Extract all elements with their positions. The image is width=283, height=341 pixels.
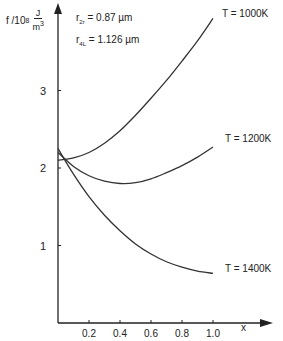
annotation-r4l: r4L = 1.126 µm: [76, 34, 139, 47]
y-tick-label: 2: [40, 162, 46, 174]
y-tick-label: 1: [40, 240, 46, 252]
y-axis-symbol: f /10: [6, 15, 25, 26]
x-tick-label: 0.4: [113, 328, 127, 339]
series-curve-2: [58, 149, 213, 274]
unit-numerator: J: [34, 8, 43, 19]
y-axis-label: f /108 J m3: [6, 8, 44, 32]
x-axis-arrow-icon: [260, 319, 273, 327]
x-axis-label: x: [241, 322, 246, 333]
y-tick-label: 3: [40, 85, 46, 97]
series-label-1000k: T = 1000K: [222, 8, 268, 19]
series-label-1200k: T = 1200K: [225, 133, 271, 144]
x-tick-label: 0.6: [144, 328, 158, 339]
y-axis-arrow-icon: [54, 3, 62, 14]
y-axis-exponent: 8: [25, 17, 29, 24]
chart-canvas: 0.20.40.60.81.0123: [0, 0, 283, 341]
x-tick-label: 0.2: [82, 328, 96, 339]
unit-denominator: m3: [32, 19, 43, 32]
series-label-1400k: T = 1400K: [225, 263, 271, 274]
y-axis-unit: J m3: [32, 8, 43, 32]
annotation-r2r: r2r = 0.87 µm: [76, 12, 132, 25]
series-curve-1: [58, 147, 213, 184]
x-tick-label: 1.0: [206, 328, 220, 339]
x-tick-label: 0.8: [175, 328, 189, 339]
